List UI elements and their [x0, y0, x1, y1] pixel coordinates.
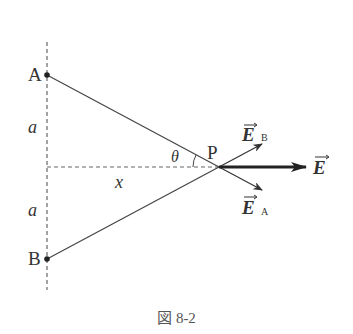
svg-text:B: B: [261, 132, 268, 143]
label-b: B: [28, 248, 41, 269]
label-p: P: [207, 142, 218, 163]
svg-text:E: E: [241, 124, 255, 145]
label-upper-a: a: [28, 117, 37, 137]
label-e-a: E A: [241, 195, 269, 218]
point-b-dot: [44, 256, 50, 262]
line-a-to-p: [47, 75, 219, 167]
line-b-to-p: [47, 167, 219, 259]
figure-caption: 図 8-2: [0, 306, 353, 327]
label-theta: θ: [171, 148, 179, 165]
label-lower-a: a: [28, 200, 37, 220]
field-diagram: A B P a a x θ E B E A E: [0, 0, 353, 334]
svg-text:E: E: [312, 157, 326, 178]
label-a: A: [28, 64, 42, 85]
point-a-dot: [44, 72, 50, 78]
vector-e-a-arrow: [219, 167, 262, 190]
vector-e-b-arrow: [219, 144, 262, 167]
label-e-total: E: [312, 155, 329, 178]
svg-text:A: A: [261, 206, 269, 217]
angle-arc: [193, 155, 196, 167]
label-e-b: E B: [241, 123, 268, 145]
svg-text:E: E: [241, 197, 255, 218]
label-x: x: [114, 172, 123, 192]
